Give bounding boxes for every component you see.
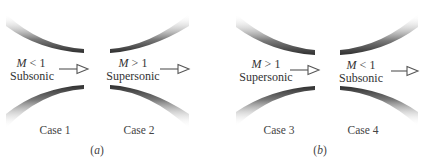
case-3-top-wall xyxy=(236,14,315,55)
panel-a-caption: (a) xyxy=(82,144,112,156)
case-3-flow-label: M > 1 Supersonic xyxy=(237,58,295,84)
mach-symbol: M xyxy=(252,57,262,71)
mach-relation: < 1 xyxy=(27,56,46,70)
case-1-regime: Subsonic xyxy=(10,70,52,83)
mach-symbol: M xyxy=(119,56,129,70)
mach-relation: > 1 xyxy=(262,57,281,71)
mach-symbol: M xyxy=(17,56,27,70)
case-3-regime: Supersonic xyxy=(237,71,295,84)
flow-arrow-icon xyxy=(59,65,88,74)
case-2-label: Case 2 xyxy=(114,124,164,136)
case-3-label: Case 3 xyxy=(254,124,304,136)
case-1-bottom-wall xyxy=(6,85,84,128)
case-2-regime: Supersonic xyxy=(104,70,162,83)
panel-b-caption: (b) xyxy=(305,144,335,156)
paren-close: ) xyxy=(100,144,104,156)
mach-relation: > 1 xyxy=(129,56,148,70)
case-2-top-wall xyxy=(110,14,189,53)
case-4-bottom-wall xyxy=(340,86,418,126)
flow-arrow-icon xyxy=(160,65,189,74)
mach-symbol: M xyxy=(347,58,357,72)
flow-arrow-icon xyxy=(391,67,418,76)
case-4-label: Case 4 xyxy=(338,124,388,136)
mach-relation: < 1 xyxy=(357,58,376,72)
case-1-label: Case 1 xyxy=(30,124,80,136)
case-2-bottom-wall xyxy=(110,85,189,128)
case-4-flow-label: M < 1 Subsonic xyxy=(338,59,384,85)
case-1-flow-label: M < 1 Subsonic xyxy=(10,57,52,83)
case-1-top-wall xyxy=(6,14,84,53)
case-4-top-wall xyxy=(340,14,418,55)
case-2-flow-label: M > 1 Supersonic xyxy=(104,57,162,83)
paren-close: ) xyxy=(323,144,327,156)
case-4-regime: Subsonic xyxy=(338,72,384,85)
case-3-bottom-wall xyxy=(236,86,315,126)
